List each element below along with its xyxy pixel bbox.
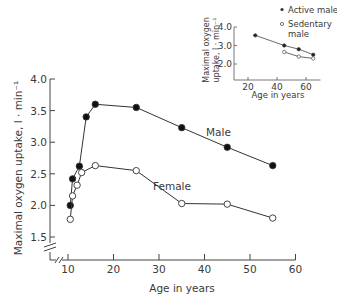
main-series [67,101,276,222]
inset-sedentary-male-point [312,57,315,60]
x-tick-label: 30 [152,263,165,275]
legend-active-label: Active male [288,5,337,15]
male-series-label: Male [206,126,231,138]
legend-sedentary-label-line1: Sedentary [288,19,332,29]
inset-y-axis-label-line1: Maximal oxygen [202,17,211,82]
male-point [270,162,276,168]
y-break-mark [44,243,56,247]
male-point [67,202,73,208]
legend-active-marker [280,8,283,11]
inset-legend: Active male Sedentary male [280,5,337,40]
y-break-mark [44,247,56,251]
y-tick-label: 2.5 [30,168,47,180]
x-tick-label: 60 [289,263,302,275]
y-tick-label: 3.0 [30,136,47,148]
inset-active-male-point [312,53,315,56]
y-tick-label: 3.5 [30,105,47,117]
male-point [133,104,139,110]
x-tick-label: 40 [198,263,211,275]
main-y-axis-label: Maximal oxygen uptake, l · min⁻¹ [12,81,24,255]
y-tick-label: 1.5 [30,231,47,243]
male-point [69,176,75,182]
female-point [224,201,230,207]
axis-break-marks [44,243,63,263]
inset-active-male-point [254,34,257,37]
female-point [133,167,139,173]
male-point [83,114,89,120]
female-point [78,169,84,175]
y-tick-label: 4.0 [30,73,47,85]
chart-canvas: 1.52.02.53.03.54.0 102030405060 Maximal … [0,0,337,307]
male-point [179,124,185,130]
inset-sedentary-male-point [283,50,286,53]
main-y-ticks: 1.52.02.53.03.54.0 [30,73,55,243]
female-line [70,166,272,220]
female-point [270,215,276,221]
legend-sedentary-marker [280,22,283,25]
x-tick-label: 20 [107,263,120,275]
main-x-ticks: 102030405060 [61,254,302,275]
inset-chart: 2.03.04.0 204060 Maximal oxygen uptake, … [202,5,337,101]
female-point [67,216,73,222]
female-point [74,182,80,188]
legend-sedentary-label-line2: male [288,29,309,39]
female-point [69,193,75,199]
inset-x-axis-label: Age in years [252,90,306,100]
male-point [224,144,230,150]
female-point [179,200,185,206]
male-point [92,101,98,107]
main-x-axis-label: Age in years [149,282,214,294]
female-point [92,162,98,168]
y-tick-label: 2.0 [30,199,47,211]
inset-active-male-point [283,44,286,47]
inset-y-axis-label-line2: uptake, l · min⁻¹ [212,18,221,83]
main-chart: 1.52.02.53.03.54.0 102030405060 Maximal … [12,73,302,294]
male-point [76,163,82,169]
inset-active-male-point [297,48,300,51]
female-series-label: Female [153,180,191,192]
inset-sedentary-male-point [297,55,300,58]
x-tick-label: 50 [243,263,256,275]
x-tick-label: 10 [61,263,74,275]
